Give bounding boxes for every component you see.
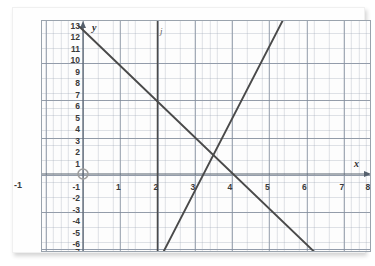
x-tick-label: 5	[265, 183, 270, 192]
y-tick-label: 8	[60, 79, 80, 88]
x-axis-label: x	[354, 159, 359, 169]
x-tick-label-negative-one: -1	[14, 181, 22, 190]
graph-screenshot: j y x 13 12 11 10 9 8 7 6 5 4 3 2 1 -1 -…	[0, 0, 375, 266]
y-axis-label: y	[92, 23, 96, 33]
x-tick-label: 7	[340, 183, 345, 192]
y-tick-label: -4	[58, 217, 80, 226]
x-axis-arrow-icon	[364, 171, 371, 177]
x-tick-label: 2	[154, 183, 159, 192]
y-tick-label: -2	[58, 194, 80, 203]
y-tick-label: 9	[60, 68, 80, 77]
y-tick-label: 6	[60, 102, 80, 111]
y-tick-label: 10	[60, 56, 80, 65]
graph-overlay-svg	[42, 21, 371, 252]
y-tick-label: 7	[60, 91, 80, 100]
y-tick-label: 13	[60, 22, 80, 31]
y-tick-label: 12	[60, 33, 80, 42]
graph-card: j y x 13 12 11 10 9 8 7 6 5 4 3 2 1 -1 -…	[12, 7, 365, 253]
y-tick-label: 5	[60, 114, 80, 123]
y-tick-label: 1	[60, 160, 80, 169]
y-tick-label: 2	[60, 148, 80, 157]
x-tick-label: 1	[116, 183, 121, 192]
descending-line	[79, 27, 371, 253]
y-tick-label: 3	[60, 137, 80, 146]
x-tick-label: 4	[228, 183, 233, 192]
y-tick-label: 11	[60, 45, 80, 54]
y-tick-label: -5	[58, 229, 80, 238]
coordinate-plane: j y x 13 12 11 10 9 8 7 6 5 4 3 2 1 -1 -…	[41, 20, 371, 252]
x-tick-label: 6	[302, 183, 307, 192]
y-tick-label: 4	[60, 125, 80, 134]
y-tick-label: -1	[58, 183, 80, 192]
line-j-label: j	[160, 27, 163, 36]
ascending-line	[79, 21, 332, 252]
x-tick-label: 3	[191, 183, 196, 192]
graph-svg-wrapper	[42, 21, 370, 251]
y-tick-label: -3	[58, 206, 80, 215]
x-tick-label: 8	[366, 183, 371, 192]
y-tick-label: -7	[58, 248, 80, 253]
